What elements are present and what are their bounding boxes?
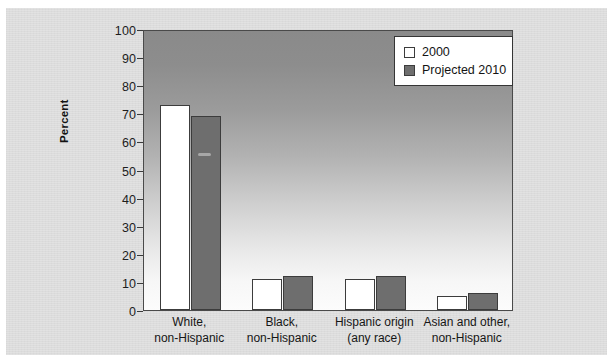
legend-item-label: 2000 (422, 45, 450, 59)
y-axis-tick: 70 (122, 107, 143, 121)
y-axis: 0102030405060708090100 (98, 30, 143, 311)
y-axis-tick: 60 (122, 135, 143, 149)
x-axis-label-line: Hispanic origin (328, 315, 421, 331)
y-axis-title: Percent (58, 99, 70, 143)
x-axis-label-line: White, (143, 315, 236, 331)
y-axis-tick: 50 (122, 164, 143, 178)
x-axis-label-line: non-Hispanic (143, 331, 236, 347)
y-axis-tick-label: 20 (122, 249, 143, 263)
x-axis-category-label: White,non-Hispanic (143, 315, 236, 346)
figure-card: Percent 0102030405060708090100 White,non… (6, 8, 607, 355)
y-axis-tick: 0 (129, 304, 143, 318)
y-axis-tick: 20 (122, 248, 143, 262)
bar-projected-2010 (468, 293, 498, 310)
y-axis-tick: 90 (122, 51, 143, 65)
y-axis-tick: 30 (122, 220, 143, 234)
chart-legend: 2000Projected 2010 (394, 36, 513, 86)
legend-item[interactable]: 2000 (404, 43, 504, 61)
x-axis-label-line: Black, (236, 315, 329, 331)
scan-artifact (198, 153, 211, 156)
bar-projected-2010 (283, 276, 313, 310)
legend-item-label: Projected 2010 (422, 63, 506, 77)
y-axis-tick-label: 90 (122, 52, 143, 66)
bar-projected-2010 (191, 116, 221, 310)
bar-2000 (437, 296, 467, 310)
x-axis-category-label: Asian and other,non-Hispanic (421, 315, 514, 346)
x-axis-label-line: non-Hispanic (236, 331, 329, 347)
bar-2000 (252, 279, 282, 310)
y-axis-tick: 100 (115, 23, 143, 37)
x-axis-category-label: Black,non-Hispanic (236, 315, 329, 346)
y-axis-tick-label: 80 (122, 80, 143, 94)
y-axis-tick-label: 60 (122, 136, 143, 150)
x-axis: White,non-HispanicBlack,non-HispanicHisp… (143, 315, 513, 362)
y-axis-tick: 10 (122, 276, 143, 290)
legend-item[interactable]: Projected 2010 (404, 61, 504, 79)
y-axis-tick-label: 30 (122, 221, 143, 235)
y-axis-tick-mark (137, 311, 143, 312)
x-axis-category-label: Hispanic origin(any race) (328, 315, 421, 346)
y-axis-tick-label: 100 (115, 24, 143, 38)
y-axis-tick: 40 (122, 192, 143, 206)
y-axis-tick-label: 10 (122, 277, 143, 291)
y-axis-tick-label: 50 (122, 165, 143, 179)
y-axis-tick-label: 70 (122, 108, 143, 122)
y-axis-tick-label: 40 (122, 193, 143, 207)
x-axis-label-line: (any race) (328, 331, 421, 347)
bar-projected-2010 (376, 276, 406, 310)
legend-swatch-icon (404, 47, 415, 58)
bar-2000 (160, 105, 190, 310)
x-axis-label-line: Asian and other, (421, 315, 514, 331)
x-axis-label-line: non-Hispanic (421, 331, 514, 347)
y-axis-tick: 80 (122, 79, 143, 93)
y-axis-tick-label: 0 (129, 305, 143, 319)
legend-swatch-icon (404, 65, 415, 76)
bar-2000 (345, 279, 375, 310)
